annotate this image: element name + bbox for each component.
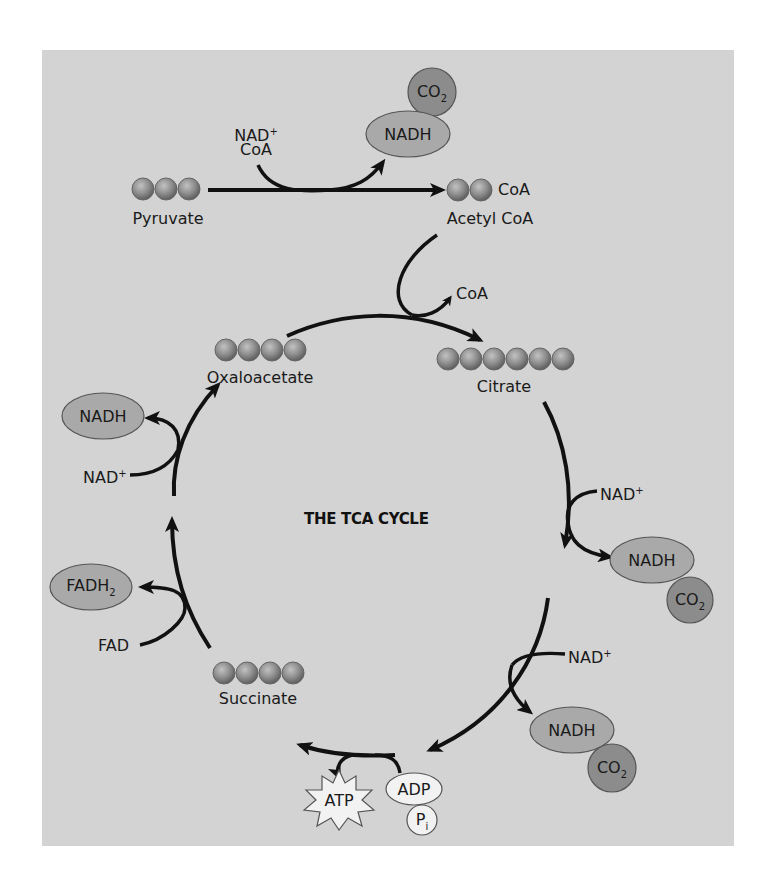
succinate-spheres	[213, 662, 304, 684]
oxaloacetate-spheres	[215, 339, 306, 361]
left-nad-in-arrow	[130, 450, 178, 475]
oxaloacetate-label: Oxaloacetate	[207, 369, 314, 387]
left-nad-label: NAD+	[83, 465, 127, 487]
cycle-arc-citrate-down	[544, 402, 569, 545]
acetylcoa-spheres	[447, 179, 492, 201]
nadh-right1-label: NADH	[628, 551, 675, 570]
cycle-arc-oxaloacetate-to-citrate	[287, 316, 480, 340]
co2-right1-label: CO2	[675, 590, 705, 611]
citrate-label: Citrate	[477, 378, 531, 396]
atp-label: ATP	[324, 791, 353, 810]
nadh-out-arrow	[330, 162, 383, 190]
acetylcoa-coa-tag: CoA	[498, 181, 530, 199]
left-nadh-out-arrow	[148, 418, 179, 450]
right1-nadh-out	[568, 523, 610, 557]
nadh-top-label: NADH	[384, 125, 431, 144]
succinate-label: Succinate	[219, 690, 297, 708]
right1-nad-in	[567, 491, 597, 523]
pyruvate-spheres	[132, 178, 200, 200]
co2-right2-label: CO2	[597, 758, 627, 779]
citrate-spheres	[437, 348, 574, 370]
nadh-right2-label: NADH	[548, 721, 595, 740]
fad-label: FAD	[98, 637, 129, 655]
right2-nad-in	[512, 653, 565, 665]
nadh-left-label: NADH	[79, 407, 126, 426]
cycle-arc-left-lower	[172, 520, 210, 648]
acetylcoa-in-arrow	[398, 235, 437, 315]
adp-label: ADP	[398, 780, 431, 799]
pyruvate-label: Pyruvate	[132, 210, 203, 228]
co2-top-label: CO2	[417, 82, 447, 103]
released-coa-label: CoA	[456, 285, 488, 303]
fadh2-label: FADH2	[66, 576, 115, 597]
nad-coa-in-arrow	[258, 165, 330, 191]
fad-in-arrow	[140, 608, 185, 645]
pi-label: Pi	[416, 810, 428, 831]
right2-nad-label: NAD+	[568, 645, 612, 667]
coa-out-arrow	[412, 298, 450, 316]
fadh2-out-arrow	[142, 587, 185, 608]
pyruvate-coa-label: CoA	[240, 141, 272, 159]
diagram-title: THE TCA CYCLE	[304, 510, 429, 528]
right1-nad-label: NAD+	[600, 482, 644, 504]
adp-in-arrow	[375, 755, 400, 773]
acetylcoa-label: Acetyl CoA	[447, 210, 533, 228]
